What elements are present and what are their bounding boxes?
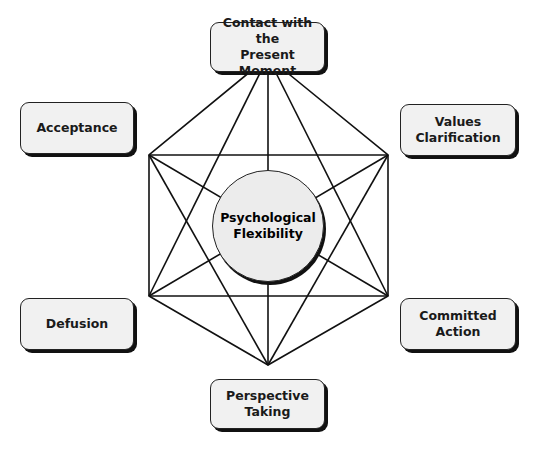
psychological-flexibility-node: Psychological Flexibility xyxy=(212,170,324,282)
committed-action-node: Committed Action xyxy=(400,298,516,350)
acceptance-node: Acceptance xyxy=(20,102,134,154)
contact-present-moment-node: Contact with the Present Moment xyxy=(210,22,325,72)
values-clarification-node: Values Clarification xyxy=(400,104,516,156)
perspective-taking-node: Perspective Taking xyxy=(210,379,325,429)
defusion-node: Defusion xyxy=(20,298,134,350)
